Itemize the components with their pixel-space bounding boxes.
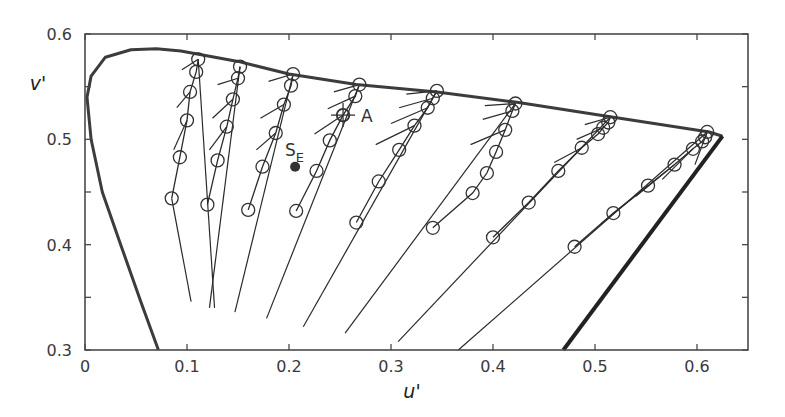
ray-line [174,120,187,149]
family-1-line [172,59,199,198]
y-tick-label: 0.6 [47,25,72,44]
y-tick-label: 0.3 [47,341,72,360]
ray-line [554,148,582,163]
x-tick-label: 0.1 [174,357,199,376]
family-6-line [433,104,516,228]
se-main: S [285,140,296,160]
ray-line [209,67,240,308]
point-a-label: A [361,106,373,126]
y-axis-label: v' [30,72,46,94]
ray-line [235,74,293,312]
data-markers [165,53,714,253]
purple-line [563,136,722,350]
family-2-line [207,67,240,205]
spectrum-locus [87,49,723,350]
ray-line [267,85,360,319]
ray-line [345,104,515,334]
ray-line [458,132,707,350]
x-tick-label: 0.2 [276,357,301,376]
y-tick-label: 0.4 [47,236,72,255]
x-tick-label: 0.5 [582,357,607,376]
x-tick-label: 0.4 [480,357,505,376]
x-tick-label: 0 [80,357,90,376]
x-axis-label: u' [403,380,420,402]
family-lines [172,59,708,246]
x-tick-label: 0.3 [378,357,403,376]
point-se-label: SE [285,140,304,165]
point-a [331,103,355,127]
y-tick-label: 0.5 [47,130,72,149]
x-tick-label: 0.6 [684,357,709,376]
ray-line [303,91,437,327]
family-4-line [296,85,359,211]
ray-line [172,198,191,301]
axis-tick-labels: 00.10.20.30.40.50.60.30.40.50.6 [47,25,710,376]
se-subscript: E [296,150,304,165]
chromaticity-chart: 00.10.20.30.40.50.60.30.40.50.6 u' v' A … [0,0,785,417]
